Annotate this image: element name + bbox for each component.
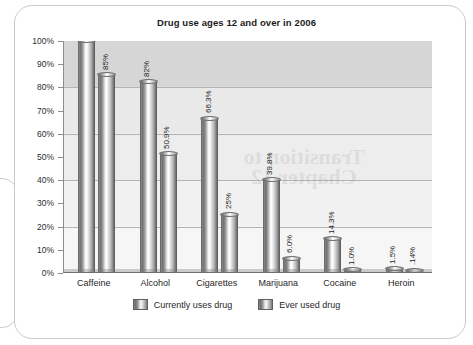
plot-area: Transition to Chapter 12 85%82%50.9%66.3… — [63, 41, 432, 273]
y-axis-tick-label: 70% — [12, 106, 54, 116]
gridline-80 — [64, 87, 432, 88]
bar-value-label: .14% — [408, 247, 417, 265]
y-axis-tick-label: 50% — [12, 152, 54, 162]
bar-body — [78, 41, 95, 272]
legend-label: Ever used drug — [279, 300, 340, 310]
legend-swatch-icon — [258, 299, 273, 310]
y-axis-tick-label: 90% — [12, 59, 54, 69]
y-axis-tick-label: 100% — [12, 36, 54, 46]
bar-body — [160, 154, 177, 272]
bar-body — [140, 82, 157, 272]
legend-item-currently-uses-drug: Currently uses drug — [133, 299, 233, 310]
bar-value-label: 85% — [100, 54, 109, 70]
bar-body — [263, 180, 280, 272]
bar: 14.3% — [324, 239, 341, 272]
gridline-20 — [64, 227, 432, 228]
chart-title: Drug use ages 12 and over in 2006 — [0, 17, 473, 28]
legend-swatch-icon — [133, 299, 148, 310]
bar-value-label: 14.3% — [326, 211, 335, 234]
page-root: Drug use ages 12 and over in 2006 100%90… — [0, 0, 473, 345]
bar: 82% — [140, 82, 157, 272]
bar-body — [98, 75, 115, 272]
bar: 66.3% — [201, 118, 218, 272]
x-axis-category-label: Cigarettes — [186, 278, 248, 288]
x-axis-category-label: Caffeine — [63, 278, 125, 288]
legend-label: Currently uses drug — [154, 300, 233, 310]
bar-body — [201, 118, 218, 272]
bar-value-label: 50.9% — [162, 126, 171, 149]
bar-value-label: 1.0% — [346, 246, 355, 264]
bar-value-label: 1.5% — [388, 245, 397, 263]
y-axis-tick-label: 40% — [12, 175, 54, 185]
baseline-shadow — [64, 269, 432, 272]
x-axis-category-label: Alcohol — [125, 278, 187, 288]
bar: 50.9% — [160, 154, 177, 272]
bar-body — [324, 239, 341, 272]
gridline-60 — [64, 134, 432, 135]
y-axis-tick-label: 20% — [12, 222, 54, 232]
bar: 39.8% — [263, 180, 280, 272]
y-axis-tick-label: 80% — [12, 82, 54, 92]
gridline-40 — [64, 180, 432, 181]
x-axis-category-label: Heroin — [371, 278, 433, 288]
bar-top-ellipse — [282, 256, 301, 261]
y-axis-tick-mark — [58, 273, 63, 274]
bar-value-label: 6.0% — [285, 235, 294, 253]
x-axis-category-label: Marijuana — [248, 278, 310, 288]
bar-top-ellipse — [220, 212, 239, 217]
y-axis-tick-label: 10% — [12, 245, 54, 255]
bar-value-label: 82% — [142, 61, 151, 77]
y-axis-tick-label: 0% — [12, 268, 54, 278]
bar — [78, 41, 95, 272]
bar: 25% — [221, 214, 238, 272]
y-axis-tick-label: 30% — [12, 198, 54, 208]
legend-item-ever-used-drug: Ever used drug — [258, 299, 340, 310]
bar-value-label: 25% — [223, 193, 232, 209]
bar-top-ellipse — [200, 116, 219, 121]
x-axis-category-label: Cocaine — [309, 278, 371, 288]
bar: 85% — [98, 75, 115, 272]
chart-legend: Currently uses drug Ever used drug — [0, 299, 473, 310]
bar-body — [221, 214, 238, 272]
bar-value-label: 66.3% — [203, 91, 212, 114]
bar-value-label: 39.8% — [265, 152, 274, 175]
y-axis-tick-label: 60% — [12, 129, 54, 139]
